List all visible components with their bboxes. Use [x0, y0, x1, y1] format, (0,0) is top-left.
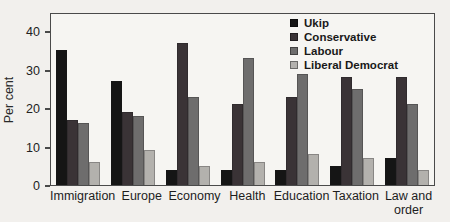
legend-label: Labour — [304, 45, 343, 57]
x-axis: ImmigrationEuropeEconomyHealthEducationT… — [50, 190, 435, 217]
legend-item-liberal-democrat: Liberal Democrat — [290, 59, 398, 71]
bar-group-economy — [160, 14, 215, 185]
bar-conservative — [232, 104, 243, 185]
plot-area: UkipConservativeLabourLiberal Democrat — [50, 13, 435, 186]
x-tick-label: Immigration — [50, 190, 115, 217]
bar-ukip — [385, 158, 396, 185]
bar-labour — [297, 74, 308, 185]
bar-liberal-democrat — [418, 170, 429, 185]
legend: UkipConservativeLabourLiberal Democrat — [290, 17, 398, 71]
x-tick-label: Economy — [168, 190, 220, 217]
x-tick-label: Health — [229, 190, 265, 217]
legend-item-conservative: Conservative — [290, 31, 398, 43]
x-tick-cell: Immigration — [50, 190, 115, 217]
x-tick-label: Taxation — [332, 190, 379, 217]
y-axis-title-text: Per cent — [2, 76, 16, 123]
bar-labour — [188, 97, 199, 185]
x-tick-cell: Health — [221, 190, 274, 217]
x-tick-cell: Law and order — [382, 190, 435, 217]
bar-ukip — [330, 166, 341, 185]
legend-swatch-liberal-democrat — [290, 61, 298, 69]
legend-item-labour: Labour — [290, 45, 398, 57]
bar-conservative — [396, 77, 407, 185]
x-tick-cell: Education — [274, 190, 330, 217]
y-tick-label: 0 — [33, 179, 40, 193]
legend-swatch-conservative — [290, 33, 298, 41]
bar-ukip — [111, 81, 122, 185]
bar-ukip — [56, 50, 67, 185]
x-tick-label: Law and order — [382, 190, 435, 217]
bar-conservative — [177, 43, 188, 185]
bar-labour — [78, 123, 89, 185]
y-axis: 010203040 — [16, 13, 50, 186]
bar-group-health — [215, 14, 270, 185]
legend-item-ukip: Ukip — [290, 17, 398, 29]
bar-ukip — [275, 170, 286, 185]
bar-labour — [352, 89, 363, 185]
x-tick-cell: Taxation — [329, 190, 382, 217]
bar-liberal-democrat — [89, 162, 100, 185]
bar-labour — [133, 116, 144, 185]
legend-swatch-ukip — [290, 19, 298, 27]
y-tick-label: 20 — [26, 102, 40, 116]
legend-swatch-labour — [290, 47, 298, 55]
y-tick-label: 10 — [26, 141, 40, 155]
y-tick-label: 40 — [26, 25, 40, 39]
bar-group-europe — [106, 14, 161, 185]
bar-conservative — [122, 112, 133, 185]
bar-liberal-democrat — [308, 154, 319, 185]
bar-group-immigration — [51, 14, 106, 185]
bar-liberal-democrat — [144, 150, 155, 185]
legend-label: Conservative — [304, 31, 376, 43]
bar-liberal-democrat — [199, 166, 210, 185]
bar-ukip — [166, 170, 177, 185]
x-tick-cell: Economy — [168, 190, 221, 217]
bar-labour — [243, 58, 254, 185]
legend-label: Ukip — [304, 17, 329, 29]
bar-ukip — [221, 170, 232, 185]
bar-conservative — [67, 120, 78, 185]
x-tick-label: Education — [274, 190, 330, 217]
legend-label: Liberal Democrat — [304, 59, 398, 71]
bar-conservative — [341, 77, 352, 185]
bar-conservative — [286, 97, 297, 185]
bar-chart-figure: Per cent 010203040 UkipConservativeLabou… — [0, 0, 450, 222]
x-tick-label: Europe — [122, 190, 162, 217]
bar-liberal-democrat — [254, 162, 265, 185]
bar-labour — [407, 104, 418, 185]
y-tick-label: 30 — [26, 64, 40, 78]
bar-liberal-democrat — [363, 158, 374, 185]
x-tick-cell: Europe — [115, 190, 168, 217]
